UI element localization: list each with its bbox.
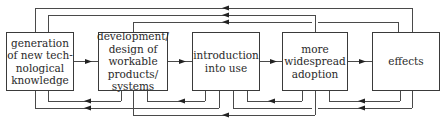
arrow-right-icon — [85, 59, 92, 64]
arrow-left-icon — [268, 99, 275, 104]
innovation-process-diagram: generation of new tech- nological knowle… — [0, 0, 444, 122]
arrow-right-icon — [359, 59, 366, 64]
stage-label-introduction: introduction into use — [193, 49, 259, 74]
arrow-left-icon — [222, 13, 229, 18]
arrow-left-icon — [84, 99, 91, 104]
arrow-right-icon — [179, 59, 186, 64]
stage-box-generation: generation of new tech- nological knowle… — [6, 32, 74, 91]
arrow-left-icon — [84, 106, 91, 111]
arrow-left-icon — [222, 6, 229, 11]
arrow-left-icon — [358, 99, 365, 104]
arrow-left-icon — [222, 113, 229, 118]
stage-box-development: development/ design of workable products… — [98, 32, 168, 91]
arrow-left-icon — [358, 106, 365, 111]
arrow-left-icon — [222, 20, 229, 25]
stage-label-development: development/ design of workable products… — [97, 30, 169, 92]
arrow-right-icon — [270, 59, 277, 64]
stage-label-effects: effects — [388, 55, 423, 67]
stage-box-effects: effects — [372, 32, 440, 91]
stage-label-adoption: more widespread adoption — [284, 43, 346, 80]
stage-label-generation: generation of new tech- nological knowle… — [7, 37, 72, 87]
stage-box-introduction: introduction into use — [192, 32, 260, 91]
stage-box-adoption: more widespread adoption — [282, 32, 348, 91]
arrow-left-icon — [178, 99, 185, 104]
